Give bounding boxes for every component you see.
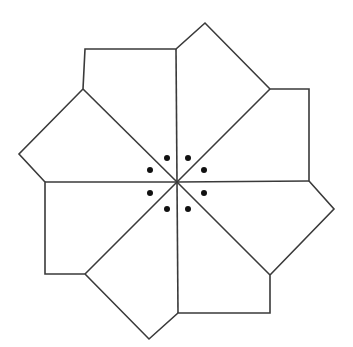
pinwheel-diagram <box>0 0 353 347</box>
pinwheel-figure <box>0 0 353 347</box>
dot <box>147 167 153 173</box>
dot <box>201 167 207 173</box>
spoke-line <box>85 182 177 274</box>
dot <box>185 155 191 161</box>
dot <box>185 206 191 212</box>
spoke-line <box>177 89 270 182</box>
spoke-line <box>177 182 270 275</box>
dot <box>164 206 170 212</box>
spoke-line <box>177 181 309 182</box>
dot <box>164 155 170 161</box>
dot <box>147 190 153 196</box>
spoke-line <box>83 89 177 182</box>
pinwheel-spokes <box>45 49 309 313</box>
spoke-line <box>177 182 178 313</box>
spoke-line <box>176 49 177 182</box>
dot <box>201 190 207 196</box>
